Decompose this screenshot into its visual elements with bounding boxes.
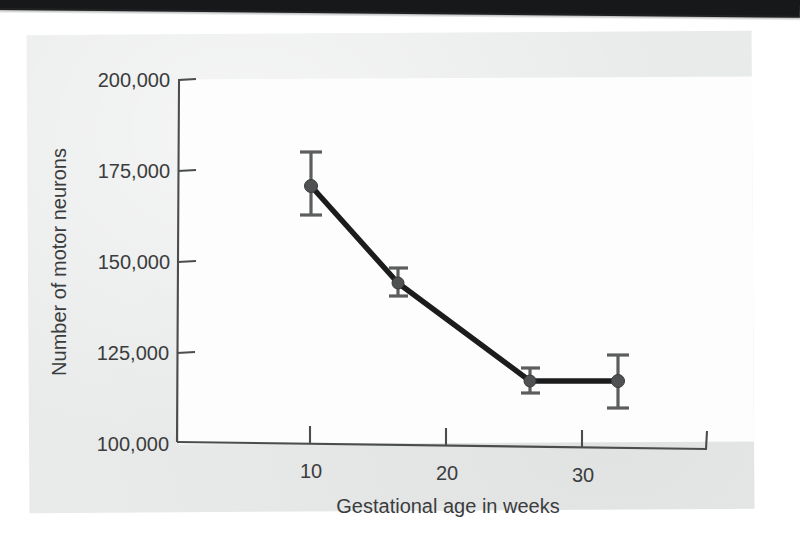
- x-tick-label-20: 20: [436, 462, 458, 484]
- data-point-marker-3: [524, 375, 536, 387]
- y-tick-label-175000: 175,000: [98, 160, 170, 182]
- x-tick-label-30: 30: [572, 464, 594, 486]
- y-tick-label-125000: 125,000: [97, 342, 169, 364]
- x-tick-label-10: 10: [300, 460, 322, 482]
- x-axis-spine: [177, 431, 707, 449]
- x-axis-title: Gestational age in weeks: [336, 495, 559, 517]
- data-point-marker-4: [612, 375, 625, 388]
- series-line-motor-neuron-count: [311, 186, 618, 381]
- y-tick-mark-150000: [178, 261, 196, 262]
- y-tick-label-150000: 150,000: [98, 251, 170, 273]
- y-tick-mark-175000: [178, 170, 196, 171]
- y-axis-title: Number of motor neurons: [48, 148, 70, 376]
- y-tick-label-200000: 200,000: [98, 69, 170, 91]
- y-tick-mark-125000: [177, 352, 195, 353]
- data-point-marker-2: [392, 277, 404, 289]
- data-point-marker-1: [305, 180, 318, 193]
- y-tick-label-100000: 100,000: [97, 433, 169, 455]
